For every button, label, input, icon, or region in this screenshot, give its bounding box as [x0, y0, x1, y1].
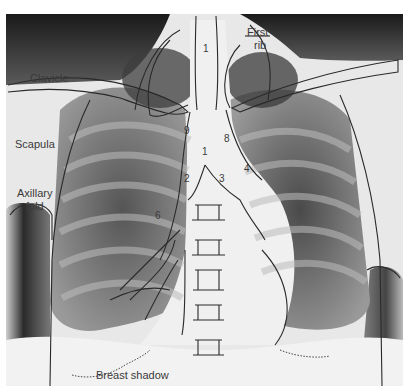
- marker-8: 8: [224, 134, 230, 144]
- marker-1-mid: 1: [202, 147, 208, 157]
- label-clavicle: Clavicle: [30, 72, 69, 84]
- label-axillary-line2: fold: [26, 200, 44, 212]
- marker-3: 3: [219, 174, 225, 184]
- marker-9: 9: [184, 126, 190, 136]
- marker-4: 4: [244, 164, 250, 174]
- label-breast-shadow: Breast shadow: [96, 369, 169, 381]
- label-axillary-line1: Axillary: [17, 187, 52, 199]
- label-first-rib-line2: rib: [254, 39, 266, 51]
- label-scapula: Scapula: [15, 138, 55, 150]
- marker-1-trachea: 1: [203, 44, 209, 54]
- chest-xray-image: [0, 0, 409, 388]
- marker-6: 6: [155, 211, 161, 221]
- marker-2: 2: [184, 174, 190, 184]
- label-first-rib-line1: First: [247, 26, 268, 38]
